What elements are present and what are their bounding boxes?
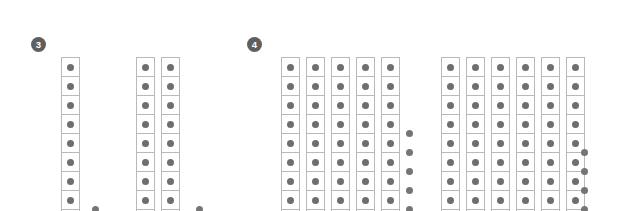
unit-dot-icon (581, 168, 588, 175)
loose-dot (575, 162, 594, 181)
loose-dot (575, 181, 594, 200)
unit-dot-icon (581, 206, 588, 211)
dot-group: 4 (0, 0, 618, 211)
unit-dot-icon (581, 149, 588, 156)
loose-dot (575, 200, 594, 211)
dot-block (0, 0, 618, 211)
unit-dot-icon (581, 187, 588, 194)
loose-dot (575, 143, 594, 162)
loose-dot-column (575, 143, 594, 211)
dot-columns-canvas: 34 (0, 0, 618, 211)
